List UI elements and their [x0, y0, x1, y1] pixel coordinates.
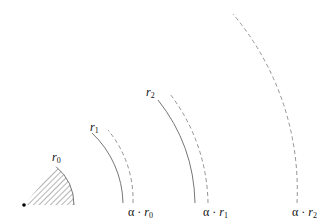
arc-r1	[92, 133, 123, 203]
label-alpha-r2: α · r2	[292, 206, 317, 219]
label-alpha-r1: α · r1	[203, 206, 228, 219]
origin-dot	[22, 203, 26, 207]
label-r1: r1	[90, 121, 99, 135]
arc-diagram	[0, 0, 333, 219]
label-r0: r0	[52, 151, 61, 165]
arc-alpha-r2	[233, 14, 297, 203]
arc-alpha-r0	[108, 130, 133, 203]
label-alpha-r0: α · r0	[128, 206, 153, 219]
sector-r0	[24, 167, 74, 205]
arc-r2	[158, 100, 195, 203]
arc-alpha-r1	[170, 94, 208, 203]
label-r2: r2	[146, 86, 155, 100]
